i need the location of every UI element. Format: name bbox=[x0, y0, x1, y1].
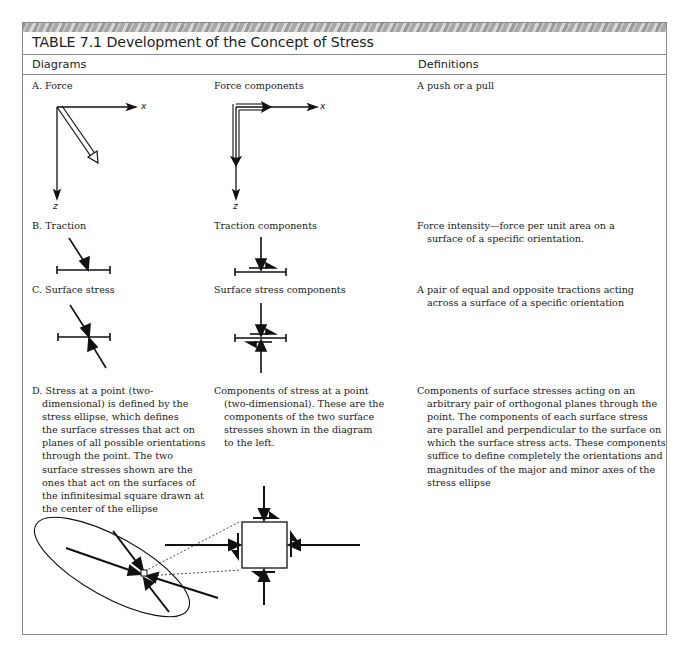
stress-ellipse-diagram bbox=[0, 0, 692, 658]
